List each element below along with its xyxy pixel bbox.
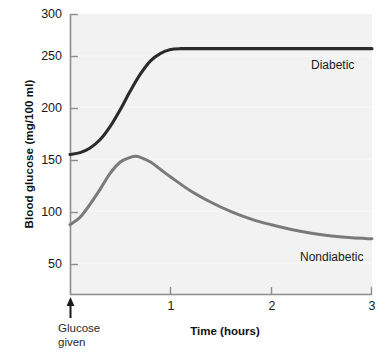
blood-glucose-chart-figure: Blood glucose (mg/100 ml) 300 250 200 15…	[0, 0, 389, 357]
glucose-given-line1: Glucose	[58, 322, 100, 336]
x-tick-label-3: 3	[362, 300, 382, 313]
y-tick-label-300: 300	[20, 8, 62, 21]
y-tick-label-200: 200	[20, 102, 62, 115]
y-tick-label-50: 50	[20, 258, 62, 271]
y-tick-label-250: 250	[20, 50, 62, 63]
y-tick-label-100: 100	[20, 206, 62, 219]
x-tick-label-2: 2	[262, 300, 282, 313]
x-tick-label-1: 1	[161, 300, 181, 313]
glucose-given-annotation: Glucose given	[58, 322, 100, 350]
series-label-diabetic: Diabetic	[311, 58, 354, 72]
glucose-given-arrow-icon	[67, 297, 75, 318]
series-label-nondiabetic: Nondiabetic	[300, 250, 363, 264]
x-axis-title: Time (hours)	[150, 325, 300, 337]
glucose-given-line2: given	[58, 336, 100, 350]
y-tick-label-150: 150	[20, 154, 62, 167]
